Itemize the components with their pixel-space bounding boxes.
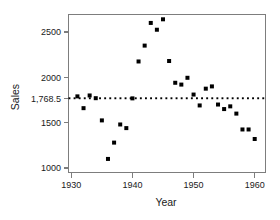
y-axis-title: Sales (9, 84, 21, 110)
axis-frame (69, 15, 266, 173)
reference-line-dot (181, 97, 183, 99)
reference-line-dot (201, 97, 203, 99)
data-point (82, 106, 86, 110)
data-point (228, 104, 232, 108)
data-point (167, 59, 171, 63)
reference-line-dot (99, 97, 101, 99)
x-tick-label: 1950 (184, 180, 204, 190)
data-point (118, 122, 122, 126)
reference-line-dot (160, 97, 162, 99)
reference-line-dot (120, 97, 122, 99)
chart-figure: 100015001,768.520002500 1930194019501960… (0, 0, 280, 220)
reference-line-dot (89, 97, 91, 99)
reference-line-dot (74, 97, 76, 99)
reference-line-dot (150, 97, 152, 99)
data-point (222, 107, 226, 111)
reference-line-1768 (69, 97, 265, 99)
reference-line-dot (242, 97, 244, 99)
data-point (155, 28, 159, 32)
reference-line-dot (114, 97, 116, 99)
reference-line-dot (211, 97, 213, 99)
reference-line-dot (104, 97, 106, 99)
data-point (100, 118, 104, 122)
y-tick-label: 2000 (41, 73, 61, 83)
reference-line-dot (165, 97, 167, 99)
data-point (143, 44, 147, 48)
data-point (94, 96, 98, 100)
reference-line-dot (216, 97, 218, 99)
scatter-plot-svg: 100015001,768.520002500 1930194019501960… (0, 0, 280, 220)
data-point (198, 103, 202, 107)
data-point (179, 83, 183, 87)
data-point (247, 127, 251, 131)
data-point (192, 93, 196, 97)
data-point (75, 94, 79, 98)
reference-line-dot (171, 97, 173, 99)
x-tick-label: 1960 (245, 180, 265, 190)
data-point (149, 21, 153, 25)
x-axis-title: Year (155, 196, 177, 208)
reference-line-dot (196, 97, 198, 99)
x-tick-label: 1930 (61, 180, 81, 190)
x-axis-ticks: 1930194019501960 (61, 173, 264, 191)
data-point (210, 84, 214, 88)
reference-line-dot (227, 97, 229, 99)
data-point (253, 137, 257, 141)
data-point (240, 127, 244, 131)
data-point (112, 141, 116, 145)
y-tick-label: 1500 (41, 118, 61, 128)
reference-line-dot (155, 97, 157, 99)
reference-line-dot (125, 97, 127, 99)
reference-line-dot (140, 97, 142, 99)
reference-line-dot (145, 97, 147, 99)
y-axis-ticks: 100015001,768.520002500 (31, 27, 69, 173)
data-point (234, 112, 238, 116)
reference-line-dot (232, 97, 234, 99)
reference-line-dot (206, 97, 208, 99)
reference-line-dot (237, 97, 239, 99)
reference-line-dot (257, 97, 259, 99)
reference-line-dot (191, 97, 193, 99)
reference-line-dot (222, 97, 224, 99)
reference-line-dot (252, 97, 254, 99)
reference-line-dot (176, 97, 178, 99)
reference-line-dot (135, 97, 137, 99)
reference-line-dot (109, 97, 111, 99)
data-point (216, 103, 220, 107)
x-tick-label: 1940 (122, 180, 142, 190)
data-point-series (75, 17, 256, 161)
reference-line-dot (247, 97, 249, 99)
data-point (106, 157, 110, 161)
data-point (137, 59, 141, 63)
plot-axes (69, 15, 266, 173)
y-tick-label: 1000 (41, 163, 61, 173)
data-point (161, 17, 165, 21)
data-point (124, 126, 128, 130)
y-tick-label: 1,768.5 (31, 94, 61, 104)
reference-line-dot (262, 97, 264, 99)
y-tick-label: 2500 (41, 27, 61, 37)
data-point (173, 81, 177, 85)
data-point (88, 93, 92, 97)
reference-line-dot (186, 97, 188, 99)
reference-line-dot (69, 97, 71, 99)
data-point (185, 76, 189, 80)
reference-line-dot (84, 97, 86, 99)
data-point (204, 87, 208, 91)
data-point (130, 96, 134, 100)
